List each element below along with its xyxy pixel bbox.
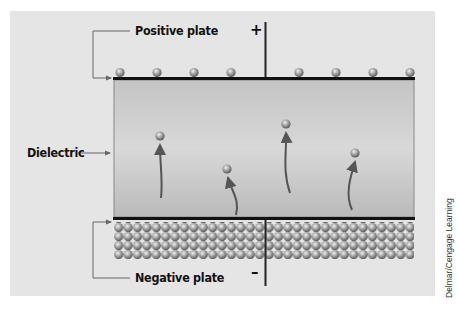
dielectric-label: Dielectric [27,145,84,160]
image-credit: Delmar/Cengage Learning [444,198,454,298]
positive-plate [113,77,415,80]
negative-sign: – [251,263,259,281]
positive-plate-label: Positive plate [135,23,218,38]
negative-plate [113,217,415,220]
positive-plate-leader [93,31,130,78]
negative-plate-charges [114,222,414,259]
positive-sign: + [250,21,263,39]
negative-plate-label: Negative plate [135,270,224,285]
dielectric-slab [114,80,414,217]
